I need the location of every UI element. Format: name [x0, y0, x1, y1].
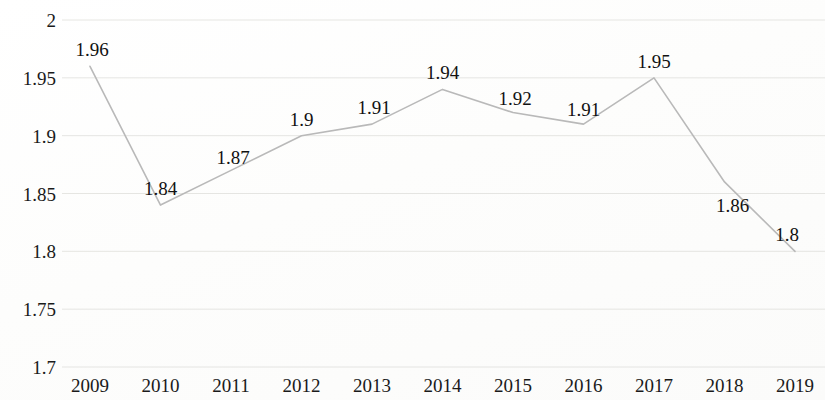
y-axis-tick-labels: 21.951.91.851.81.751.7 — [0, 0, 56, 400]
x-axis-tick-label: 2011 — [212, 376, 249, 397]
data-point-label: 1.94 — [426, 63, 459, 82]
x-axis-tick-label: 2013 — [353, 376, 391, 397]
chart-plot-svg — [0, 0, 825, 400]
y-axis-tick-label: 1.8 — [0, 242, 64, 261]
x-axis-tick-label: 2010 — [142, 376, 180, 397]
x-axis-tick-label: 2012 — [283, 376, 321, 397]
y-axis-tick-label: 1.9 — [0, 127, 64, 146]
data-point-label: 1.95 — [637, 52, 670, 71]
y-axis-tick-label: 1.95 — [0, 69, 64, 88]
x-axis-tick-label: 2019 — [776, 376, 814, 397]
data-point-label: 1.9 — [290, 110, 314, 129]
paper-background — [0, 0, 825, 400]
data-point-label: 1.96 — [75, 40, 108, 59]
x-axis-tick-label: 2016 — [565, 376, 603, 397]
x-axis-tick-label: 2014 — [424, 376, 462, 397]
y-axis-tick-label: 1.75 — [0, 300, 64, 319]
data-point-label: 1.92 — [498, 89, 531, 108]
data-point-label: 1.91 — [567, 100, 600, 119]
line-chart: 21.951.91.851.81.751.7 1.961.841.871.91.… — [0, 0, 825, 400]
series-line-0 — [90, 66, 795, 251]
data-point-label: 1.87 — [216, 148, 249, 167]
data-point-label: 1.8 — [775, 225, 799, 244]
data-point-label: 1.91 — [357, 98, 390, 117]
x-axis-tick-labels: 2009201020112012201320142015201620172018… — [0, 372, 825, 400]
data-point-label: 1.86 — [716, 196, 749, 215]
data-point-label: 1.84 — [144, 179, 177, 198]
y-axis-tick-label: 1.85 — [0, 185, 64, 204]
x-axis-tick-label: 2015 — [494, 376, 532, 397]
x-axis-tick-label: 2009 — [71, 376, 109, 397]
x-axis-tick-label: 2018 — [706, 376, 744, 397]
x-axis-tick-label: 2017 — [635, 376, 673, 397]
y-axis-tick-label: 2 — [0, 11, 64, 30]
